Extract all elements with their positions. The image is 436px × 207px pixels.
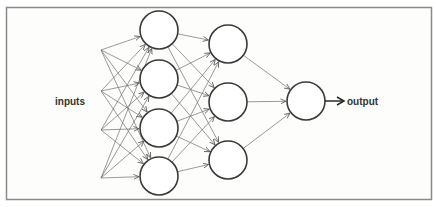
output-label: output: [347, 96, 379, 107]
hidden-layer-2-node-1: [209, 25, 247, 63]
neural-network-diagram: inputs output: [0, 0, 436, 207]
hidden-layer-1-node-2: [140, 60, 178, 98]
hidden-layer-1-node-3: [140, 109, 178, 147]
hidden-layer-2-node-3: [209, 141, 247, 179]
hidden-layer-2-node-2: [209, 83, 247, 121]
inputs-label: inputs: [55, 96, 85, 107]
output-layer-node-1: [287, 82, 325, 120]
connection-arrow: [247, 101, 286, 102]
hidden-layer-1-node-4: [140, 157, 178, 195]
hidden-layer-1-node-1: [140, 11, 178, 49]
